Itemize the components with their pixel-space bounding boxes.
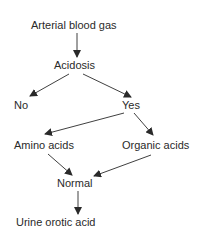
flowchart-canvas: Arterial blood gas Acidosis No Yes Amino… <box>0 0 197 236</box>
arrow-yes-to-organic-acids <box>134 113 153 135</box>
node-urine-orotic-acid: Urine orotic acid <box>16 216 95 228</box>
node-yes: Yes <box>122 99 140 111</box>
arrow-acidosis-to-yes <box>83 74 131 97</box>
arrow-yes-to-amino-acids <box>45 113 124 134</box>
node-acidosis: Acidosis <box>54 59 95 71</box>
arrow-amino-acids-to-normal <box>48 154 72 175</box>
node-amino-acids: Amino acids <box>14 139 74 151</box>
node-organic-acids: Organic acids <box>122 139 189 151</box>
node-arterial-blood-gas: Arterial blood gas <box>31 19 117 31</box>
arrow-acidosis-to-no <box>30 74 69 96</box>
node-normal: Normal <box>57 177 92 189</box>
flowchart-edges <box>0 0 197 236</box>
arrow-organic-acids-to-normal <box>94 155 151 176</box>
node-no: No <box>14 99 28 111</box>
